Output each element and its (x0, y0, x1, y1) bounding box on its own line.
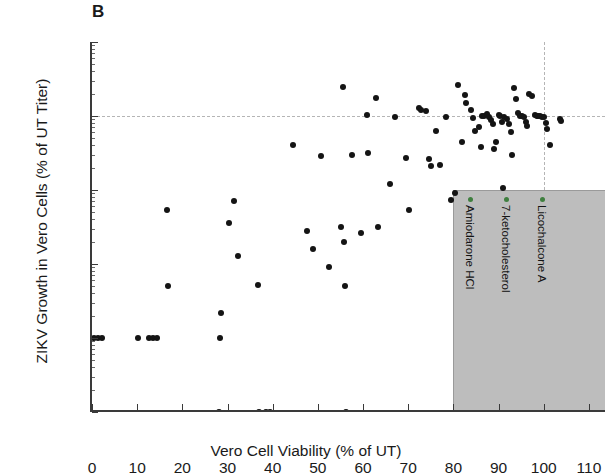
y-minor-tick (92, 367, 95, 368)
x-axis-title: Vero Cell Viability (% of UT) (0, 442, 612, 460)
data-point (437, 162, 443, 168)
y-tick (92, 116, 98, 117)
legend-label: Licochalcone A (536, 205, 548, 282)
data-point (290, 142, 296, 148)
legend-label: Amiodarone HCl (464, 205, 476, 289)
y-minor-tick (92, 316, 95, 317)
y-minor-tick (92, 349, 95, 350)
legend-marker-icon (540, 197, 545, 202)
legend-marker-icon (467, 197, 472, 202)
y-minor-tick (92, 155, 95, 156)
y-minor-tick (92, 360, 95, 361)
y-minor-tick (92, 267, 95, 268)
data-point (216, 409, 222, 410)
y-minor-tick (92, 219, 95, 220)
data-point (99, 335, 105, 341)
reference-line-horizontal (92, 116, 605, 117)
data-point (338, 224, 344, 230)
x-tick (408, 404, 409, 410)
y-minor-tick (92, 390, 95, 391)
y-minor-tick (92, 81, 95, 82)
data-point (226, 220, 232, 226)
data-point (543, 120, 549, 126)
data-point (217, 335, 223, 341)
y-minor-tick (92, 49, 95, 50)
x-tick (544, 404, 545, 410)
y-minor-tick (92, 168, 95, 169)
data-point (165, 283, 171, 289)
y-minor-tick (92, 193, 95, 194)
x-tick (453, 404, 454, 410)
y-tick (92, 264, 98, 265)
y-minor-tick (92, 212, 95, 213)
data-point (304, 228, 310, 234)
data-point (365, 150, 371, 156)
panel-label: B (92, 2, 104, 22)
data-point (375, 224, 381, 230)
y-minor-tick (92, 127, 95, 128)
y-tick (92, 42, 98, 43)
y-minor-tick (92, 119, 95, 120)
y-minor-tick (92, 94, 95, 95)
data-point (513, 96, 519, 102)
data-point (373, 95, 379, 101)
data-point (256, 409, 262, 410)
data-point (340, 84, 346, 90)
data-point (463, 100, 469, 106)
y-minor-tick (92, 293, 95, 294)
data-point (524, 123, 530, 129)
x-tick (499, 404, 500, 410)
data-point (310, 246, 316, 252)
data-point (468, 107, 474, 113)
x-tick (363, 404, 364, 410)
y-minor-tick (92, 303, 95, 304)
data-point (491, 146, 497, 152)
x-tick (92, 404, 93, 410)
y-minor-tick (92, 53, 95, 54)
data-point (164, 207, 170, 213)
data-point (493, 139, 499, 145)
data-point (318, 153, 324, 159)
y-minor-tick (92, 286, 95, 287)
data-point (358, 230, 364, 236)
y-minor-tick (92, 138, 95, 139)
data-point (508, 129, 514, 135)
data-point (406, 207, 412, 213)
data-point (547, 142, 553, 148)
data-point (387, 181, 393, 187)
data-point (455, 82, 461, 88)
legend-label: 7-ketocholesterol (500, 205, 512, 293)
plot-area: Amiodarone HCl7-ketocholesterolLicochalc… (90, 42, 605, 412)
data-point (135, 335, 141, 341)
compound-legend-box: Amiodarone HCl7-ketocholesterolLicochalc… (453, 190, 605, 410)
figure-panel-b: B ZIKV Growth in Vero Cells (% of UT Tit… (0, 0, 612, 475)
data-point (231, 198, 237, 204)
legend-entry-0: Amiodarone HCl (463, 197, 475, 289)
y-minor-tick (92, 354, 95, 355)
x-tick (318, 404, 319, 410)
data-point (349, 152, 355, 158)
data-point (255, 282, 261, 288)
y-minor-tick (92, 341, 95, 342)
data-point (476, 124, 482, 130)
y-minor-tick (92, 201, 95, 202)
y-axis-title: ZIKV Growth in Vero Cells (% of UT Titer… (33, 21, 51, 421)
data-point (326, 264, 332, 270)
y-minor-tick (92, 45, 95, 46)
data-point (509, 152, 515, 158)
data-point (506, 121, 512, 127)
y-minor-tick (92, 271, 95, 272)
y-minor-tick (92, 71, 95, 72)
data-point (490, 121, 496, 127)
data-point (403, 155, 409, 161)
data-point (423, 108, 429, 114)
x-tick (228, 404, 229, 410)
data-point (459, 139, 465, 145)
y-minor-tick (92, 123, 95, 124)
data-point (364, 112, 370, 118)
y-tick (92, 412, 98, 413)
legend-marker-icon (503, 197, 508, 202)
x-tick (589, 404, 590, 410)
y-minor-tick (92, 145, 95, 146)
y-minor-tick (92, 275, 95, 276)
